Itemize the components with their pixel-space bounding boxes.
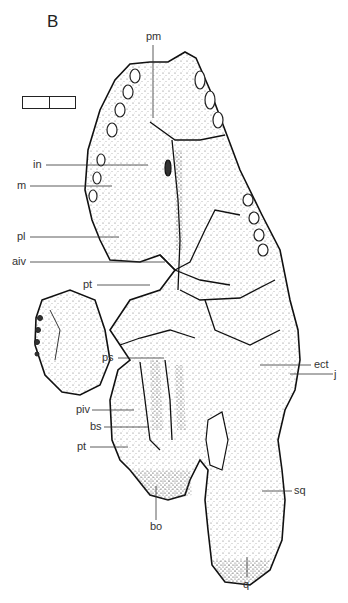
label-q: q — [243, 579, 249, 590]
label-aiv: aiv — [12, 256, 26, 267]
label-m: m — [17, 180, 26, 191]
label-pm: pm — [146, 31, 161, 42]
label-ect: ect — [314, 359, 329, 370]
label-in: in — [33, 159, 42, 170]
skull-drawing — [0, 0, 348, 603]
label-sq: sq — [294, 485, 306, 496]
label-bs: bs — [90, 421, 102, 432]
label-pt-upper: pt — [83, 279, 92, 290]
label-j: j — [334, 369, 336, 380]
label-pt-lower: pt — [77, 441, 86, 452]
label-pl: pl — [17, 231, 26, 242]
detached-fragment — [35, 290, 110, 395]
label-piv: piv — [76, 404, 90, 415]
label-bo: bo — [150, 521, 162, 532]
label-ps: ps — [102, 352, 114, 363]
